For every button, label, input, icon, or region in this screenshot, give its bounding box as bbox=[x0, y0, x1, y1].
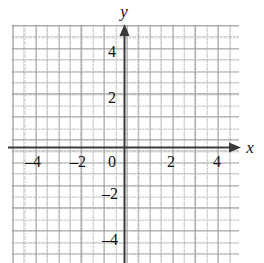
y-axis-name: y bbox=[120, 3, 128, 20]
x-tick-label-pos4: 4 bbox=[213, 154, 221, 170]
y-tick-label-neg4: –4 bbox=[102, 232, 118, 248]
axes-group bbox=[0, 0, 264, 263]
y-tick-label-neg2: –2 bbox=[102, 186, 118, 202]
x-tick-label-neg4: –4 bbox=[25, 154, 41, 170]
x-axis-arrowhead bbox=[229, 143, 241, 153]
coordinate-plane-figure: –4 –2 0 2 4 4 2 –2 –4 x y bbox=[0, 0, 264, 263]
y-axis-arrowhead bbox=[120, 24, 130, 36]
x-tick-label-neg2: –2 bbox=[70, 154, 86, 170]
y-tick-label-pos4: 4 bbox=[108, 44, 116, 60]
x-tick-label-zero: 0 bbox=[108, 154, 116, 170]
x-tick-label-pos2: 2 bbox=[167, 154, 175, 170]
y-tick-label-pos2: 2 bbox=[108, 90, 116, 106]
x-axis-name: x bbox=[246, 139, 254, 156]
